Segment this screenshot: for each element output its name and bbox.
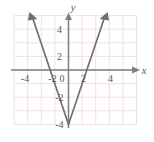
x-tick-label-pos2: 2 bbox=[81, 73, 86, 84]
x-tick-label-neg4: -4 bbox=[21, 73, 29, 84]
coordinate-plane-svg: -4 -2 0 2 4 4 2 -2 -4 x y bbox=[0, 0, 154, 142]
y-tick-label-neg2: -2 bbox=[55, 92, 63, 103]
y-tick-label-pos4: 4 bbox=[57, 24, 62, 35]
v-curve-left-arrowhead bbox=[28, 12, 37, 20]
y-tick-label-pos2: 2 bbox=[57, 51, 62, 62]
graph-figure: -4 -2 0 2 4 4 2 -2 -4 x y bbox=[0, 0, 154, 142]
x-tick-label-neg2: -2 bbox=[48, 73, 56, 84]
x-tick-label-pos4: 4 bbox=[108, 73, 113, 84]
y-axis-label: y bbox=[70, 2, 76, 13]
v-curve-right-arrowhead bbox=[100, 12, 109, 20]
y-axis-arrowhead bbox=[65, 13, 72, 21]
x-axis-arrowhead bbox=[132, 67, 140, 74]
origin-label: 0 bbox=[60, 73, 65, 84]
y-tick-label-neg4: -4 bbox=[55, 119, 63, 130]
x-axis-label: x bbox=[141, 65, 147, 76]
